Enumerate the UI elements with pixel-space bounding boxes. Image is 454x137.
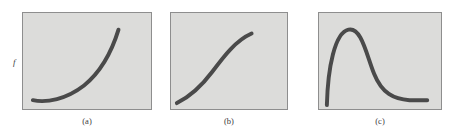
caption-c: (c) <box>340 117 420 126</box>
caption-a: (a) <box>47 117 127 126</box>
convex-increasing-curve <box>23 13 151 109</box>
caption-b: (b) <box>189 117 269 126</box>
panel-a <box>22 12 152 110</box>
panel-b <box>170 12 288 110</box>
axis-label-f: f <box>13 58 16 67</box>
panel-c <box>318 12 442 110</box>
figure-container: f (a) (b) (c) <box>0 0 454 137</box>
sigmoid-curve <box>171 13 287 109</box>
skewed-peak-curve <box>319 13 441 109</box>
